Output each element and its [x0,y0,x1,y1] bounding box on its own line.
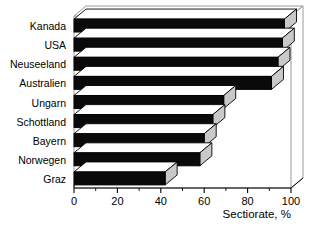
x-tick-label: 0 [71,195,77,207]
chart-canvas: 020406080100 KanadaUSANeuseelandAustrali… [0,0,314,228]
category-label-usa: USA [44,39,66,51]
category-label-kanada: Kanada [30,20,66,32]
category-label-australien: Australien [19,77,66,89]
bar-front-face [74,172,165,185]
category-label-ungarn: Ungarn [32,97,67,109]
category-label-bayern: Bayern [33,135,66,147]
bar-top-face [74,162,177,172]
bar-top-face [74,105,225,115]
bar-top-face [74,28,294,38]
bar-top-face [74,9,296,19]
bar-top-face [74,143,212,153]
x-tick-label: 100 [282,195,300,207]
category-label-neuseeland: Neuseeland [10,58,66,70]
bar-top-face [74,124,216,134]
x-tick-label: 20 [111,195,123,207]
x-tick-label: 80 [241,195,253,207]
bars-layer [74,9,296,185]
bar-top-face [74,47,290,57]
category-label-norwegen: Norwegen [18,154,66,166]
x-axis-ticks: 020406080100 [71,188,300,207]
x-axis-title: Sectiorate, % [223,208,291,220]
x-tick-label: 40 [155,195,167,207]
category-label-graz: Graz [43,173,66,185]
bar-chart-figure: 020406080100 KanadaUSANeuseelandAustrali… [0,0,314,228]
bar-top-face [74,86,236,96]
bar-graz [74,162,177,185]
bar-top-face [74,66,283,76]
category-label-schottland: Schottland [16,116,66,128]
x-tick-label: 60 [198,195,210,207]
category-labels: KanadaUSANeuseelandAustralienUngarnSchot… [10,20,66,185]
